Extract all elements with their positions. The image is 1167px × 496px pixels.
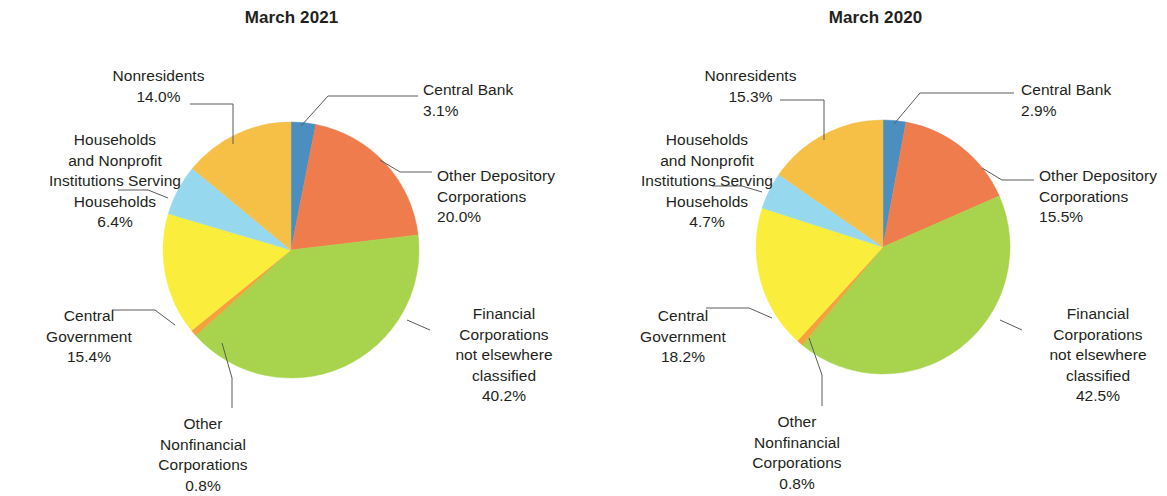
pie-label-financial-corporations-nec: Financial Corporations not elsewhere cla… bbox=[432, 304, 576, 407]
pie-chart-panel-march-2020: March 2020 Central Bank 2.9%Other Deposi… bbox=[584, 0, 1167, 496]
pie-label-households-npish: Households and Nonprofit Institutions Se… bbox=[609, 130, 805, 233]
leader-line-central-bank bbox=[301, 96, 418, 126]
pie-label-financial-corporations-nec: Financial Corporations not elsewhere cla… bbox=[1026, 304, 1167, 407]
pie-label-other-depository-corporations: Other Depository Corporations 15.5% bbox=[1039, 166, 1167, 228]
pie-label-other-nonfinancial-corporations: Other Nonfinancial Corporations 0.8% bbox=[712, 412, 882, 494]
pie-label-central-government: Central Government 15.4% bbox=[19, 306, 159, 368]
figure-canvas: March 2021 Central Bank 3.1%Other Deposi… bbox=[0, 0, 1167, 496]
pie-label-nonresidents: Nonresidents 15.3% bbox=[673, 66, 828, 107]
pie-label-central-bank: Central Bank 2.9% bbox=[1021, 80, 1167, 121]
pie-label-central-government: Central Government 18.2% bbox=[613, 306, 753, 368]
leader-line-financial-corporations-nec bbox=[407, 320, 430, 330]
pie-label-central-bank: Central Bank 3.1% bbox=[423, 80, 573, 121]
pie-chart-panel-march-2021: March 2021 Central Bank 3.1%Other Deposi… bbox=[0, 0, 583, 496]
leader-line-financial-corporations-nec bbox=[1000, 320, 1022, 330]
leader-line-central-bank bbox=[894, 93, 1014, 124]
pie-label-other-depository-corporations: Other Depository Corporations 20.0% bbox=[437, 166, 587, 228]
pie-label-households-npish: Households and Nonprofit Institutions Se… bbox=[17, 130, 213, 233]
pie-label-other-nonfinancial-corporations: Other Nonfinancial Corporations 0.8% bbox=[118, 414, 288, 496]
pie-label-nonresidents: Nonresidents 14.0% bbox=[81, 66, 236, 107]
